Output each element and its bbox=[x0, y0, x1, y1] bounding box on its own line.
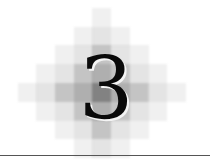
horizontal-rule bbox=[0, 155, 210, 156]
grid-cell bbox=[55, 120, 74, 139]
chapter-opener: 3 bbox=[0, 0, 210, 164]
grid-cell bbox=[55, 102, 74, 121]
grid-cell bbox=[92, 8, 111, 27]
grid-cell bbox=[55, 83, 74, 102]
grid-cell bbox=[148, 64, 167, 83]
grid-cell bbox=[55, 64, 74, 83]
grid-cell bbox=[36, 83, 55, 102]
grid-cell bbox=[167, 83, 186, 102]
grid-cell bbox=[18, 83, 37, 102]
grid-cell bbox=[55, 45, 74, 64]
grid-cell bbox=[36, 64, 55, 83]
chapter-number: 3 bbox=[78, 46, 134, 130]
grid-cell bbox=[148, 83, 167, 102]
grid-cell bbox=[148, 102, 167, 121]
grid-cell bbox=[36, 102, 55, 121]
